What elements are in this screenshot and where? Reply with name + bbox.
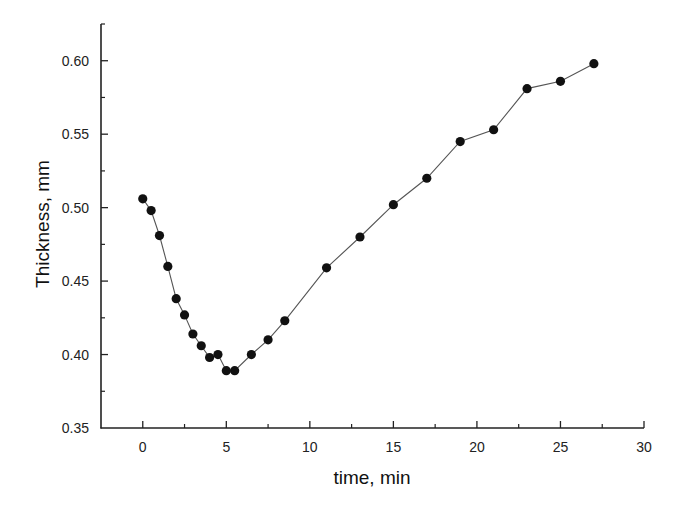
data-point: [222, 366, 231, 375]
y-tick-label: 0.50: [62, 200, 89, 216]
data-point: [138, 194, 147, 203]
data-point: [147, 206, 156, 215]
data-point: [456, 137, 465, 146]
x-tick-label: 30: [636, 439, 652, 455]
data-point: [163, 262, 172, 271]
y-tick-label: 0.55: [62, 126, 89, 142]
data-point: [522, 84, 531, 93]
x-tick-label: 0: [139, 439, 147, 455]
data-point: [188, 329, 197, 338]
data-point: [205, 353, 214, 362]
y-tick-label: 0.45: [62, 273, 89, 289]
data-point: [589, 59, 598, 68]
y-tick-label: 0.40: [62, 347, 89, 363]
x-tick-label: 20: [469, 439, 485, 455]
y-axis-title: Thickness, mm: [32, 160, 53, 288]
data-point: [489, 125, 498, 134]
data-point: [172, 294, 181, 303]
data-point: [155, 231, 164, 240]
data-point: [355, 232, 364, 241]
x-tick-label: 10: [302, 439, 318, 455]
data-point: [280, 316, 289, 325]
data-point: [263, 335, 272, 344]
data-point: [556, 77, 565, 86]
series-line: [143, 64, 594, 371]
data-point: [180, 310, 189, 319]
data-point: [213, 350, 222, 359]
y-tick-label: 0.35: [62, 420, 89, 436]
y-tick-label: 0.60: [62, 53, 89, 69]
x-axis-ticks: 051015202530: [139, 421, 652, 455]
data-point: [422, 174, 431, 183]
data-point: [197, 341, 206, 350]
x-tick-label: 15: [386, 439, 402, 455]
x-tick-label: 5: [222, 439, 230, 455]
x-axis-title: time, min: [333, 467, 410, 488]
data-line: [143, 64, 594, 371]
data-point: [247, 350, 256, 359]
x-tick-label: 25: [553, 439, 569, 455]
data-markers: [138, 59, 598, 375]
data-point: [389, 200, 398, 209]
data-point: [322, 263, 331, 272]
data-point: [230, 366, 239, 375]
thickness-vs-time-chart: 051015202530 0.350.400.450.500.550.60 ti…: [0, 0, 681, 507]
